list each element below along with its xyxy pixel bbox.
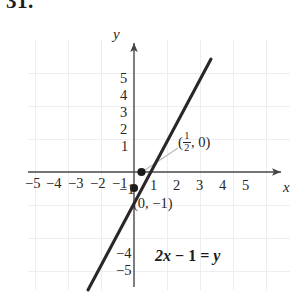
x-tick-label-5: 5 — [242, 178, 249, 193]
equation-term-2x: 2x — [155, 247, 171, 264]
y-tick-label-4: 4 — [120, 88, 127, 103]
annotation-y-intercept: (0, −1) — [133, 196, 173, 211]
x-tick-label--5: −5 — [25, 176, 40, 191]
equation-y: y — [213, 247, 220, 264]
y-axis-label: y — [113, 27, 120, 42]
x-axis-label: x — [283, 180, 290, 195]
x-tick-label--4: −4 — [46, 176, 61, 191]
y-tick-label-5: 5 — [120, 71, 127, 86]
point-x-intercept — [137, 168, 145, 176]
equation-one: 1 — [188, 247, 196, 264]
x-tick-label-3: 3 — [196, 178, 203, 193]
coordinate-plane — [0, 0, 305, 296]
y-tick-label-3: 3 — [120, 105, 127, 120]
graph-svg — [0, 0, 305, 296]
x-tick-label--2: −2 — [90, 176, 105, 191]
y-tick-label-2: 2 — [120, 122, 127, 137]
y-tick-label--5: −5 — [116, 263, 131, 278]
y-tick-label--4: −4 — [116, 246, 131, 261]
x-tick-label-2: 2 — [173, 178, 180, 193]
equation-minus: − — [175, 247, 184, 264]
equation-equals: = — [200, 247, 209, 264]
x-tick-label-1: 1 — [150, 178, 157, 193]
x-tick-label--3: −3 — [68, 176, 83, 191]
y-tick-label-1: 1 — [121, 139, 128, 154]
annotation-rest: , 0) — [191, 134, 210, 150]
equation-label: 2x − 1 = y — [155, 247, 220, 265]
fraction-one-half: 12 — [183, 131, 190, 154]
annotation-x-intercept: (12, 0) — [178, 131, 210, 154]
annotation-open-paren: ( — [178, 134, 183, 150]
x-tick-label-4: 4 — [219, 178, 226, 193]
